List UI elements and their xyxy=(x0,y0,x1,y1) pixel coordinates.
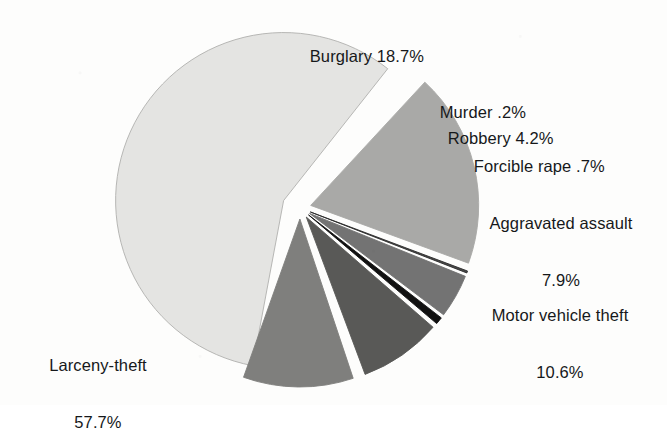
label-aggravated-assault-name: Aggravated assault xyxy=(466,214,656,233)
label-motor-vehicle-theft: Motor vehicle theft 10.6% xyxy=(462,268,658,420)
label-burglary: Burglary 18.7% xyxy=(291,28,424,85)
label-motor-vehicle-theft-value: 10.6% xyxy=(462,363,658,382)
label-larceny-theft-value: 57.7% xyxy=(14,413,182,432)
label-forcible-rape-text: Forcible rape .7% xyxy=(474,157,605,175)
label-larceny-theft: Larceny-theft 57.7% xyxy=(14,318,182,432)
label-larceny-theft-name: Larceny-theft xyxy=(14,356,182,375)
label-burglary-text: Burglary 18.7% xyxy=(310,47,424,65)
label-motor-vehicle-theft-name: Motor vehicle theft xyxy=(462,306,658,325)
